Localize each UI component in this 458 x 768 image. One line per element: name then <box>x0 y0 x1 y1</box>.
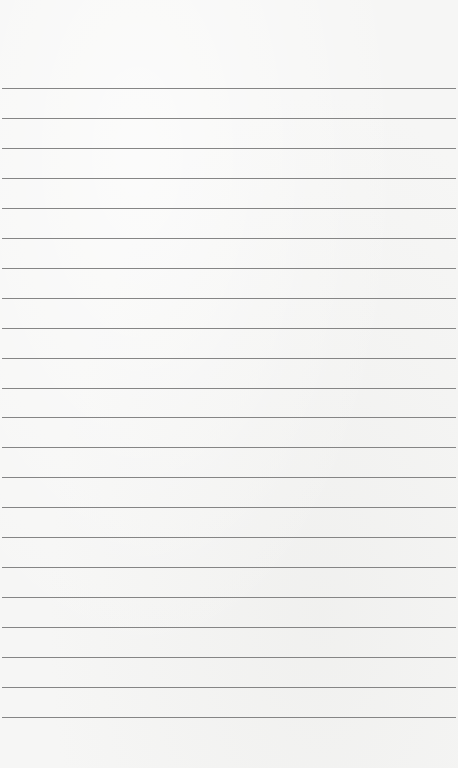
ruled-line <box>2 88 456 89</box>
ruled-line <box>2 597 456 598</box>
ruled-line <box>2 657 456 658</box>
ruled-line <box>2 477 456 478</box>
lined-paper <box>0 0 458 768</box>
ruled-line <box>2 687 456 688</box>
ruled-line <box>2 537 456 538</box>
ruled-line <box>2 238 456 239</box>
ruled-line <box>2 178 456 179</box>
ruled-line <box>2 627 456 628</box>
ruled-line <box>2 567 456 568</box>
ruled-line <box>2 717 456 718</box>
ruled-line <box>2 388 456 389</box>
ruled-line <box>2 417 456 418</box>
ruled-line <box>2 298 456 299</box>
ruled-line <box>2 507 456 508</box>
ruled-line <box>2 118 456 119</box>
ruled-line <box>2 328 456 329</box>
ruled-line <box>2 208 456 209</box>
ruled-line <box>2 447 456 448</box>
ruled-line <box>2 268 456 269</box>
ruled-line <box>2 358 456 359</box>
ruled-line <box>2 148 456 149</box>
